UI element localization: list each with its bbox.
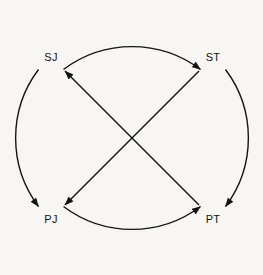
edge-sj-to-st-arc [64,47,201,70]
edge-st-to-pt-arc [226,70,249,207]
node-label-pt: PT [203,213,224,226]
diagram-canvas: SJ ST PJ PT [0,0,263,275]
node-label-sj: SJ [41,51,60,64]
edge-sj-to-pj-arc [16,70,39,207]
node-label-st: ST [203,51,224,64]
node-label-pj: PJ [41,213,60,226]
diagonal-edges [65,71,199,205]
edge-pj-to-pt-arc [64,207,201,230]
cycle-diagram [0,0,263,275]
